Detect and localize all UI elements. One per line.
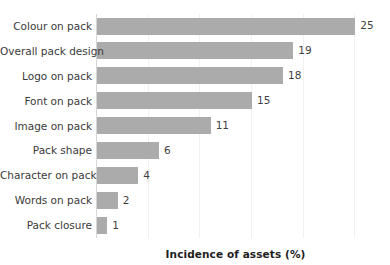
plot-area: 25191815116421 bbox=[96, 14, 375, 238]
bar-row: 4 bbox=[96, 163, 375, 188]
bar-value-label: 4 bbox=[143, 167, 150, 184]
x-axis-title: Incidence of assets (%) bbox=[96, 248, 375, 260]
bar[interactable] bbox=[97, 142, 159, 159]
bar-row: 2 bbox=[96, 188, 375, 213]
bar-row: 15 bbox=[96, 89, 375, 114]
bar[interactable] bbox=[97, 167, 138, 184]
bar[interactable] bbox=[97, 192, 118, 209]
bar-value-label: 19 bbox=[298, 42, 311, 59]
category-label: Colour on pack bbox=[0, 14, 92, 39]
bar[interactable] bbox=[97, 92, 252, 109]
category-label: Pack shape bbox=[0, 138, 92, 163]
bar-row: 18 bbox=[96, 64, 375, 89]
bar-row: 1 bbox=[96, 213, 375, 238]
category-label: Font on pack bbox=[0, 89, 92, 114]
category-axis-labels: Colour on packOverall pack designLogo on… bbox=[0, 14, 92, 238]
bar[interactable] bbox=[97, 117, 211, 134]
bar[interactable] bbox=[97, 42, 293, 59]
bar[interactable] bbox=[97, 18, 355, 35]
category-label: Character on pack bbox=[0, 163, 92, 188]
bar[interactable] bbox=[97, 217, 107, 234]
bar-value-label: 11 bbox=[216, 117, 229, 134]
bar-value-label: 1 bbox=[112, 217, 119, 234]
category-label: Logo on pack bbox=[0, 64, 92, 89]
bar-value-label: 2 bbox=[123, 192, 130, 209]
category-label: Overall pack design bbox=[0, 39, 92, 64]
bar-value-label: 25 bbox=[360, 17, 373, 34]
bar-value-label: 15 bbox=[257, 92, 270, 109]
bar-chart: 25191815116421 Colour on packOverall pac… bbox=[0, 0, 390, 265]
category-label: Pack closure bbox=[0, 213, 92, 238]
bar-row: 6 bbox=[96, 138, 375, 163]
category-label: Words on pack bbox=[0, 188, 92, 213]
bar-row: 11 bbox=[96, 114, 375, 139]
bar-value-label: 18 bbox=[288, 67, 301, 84]
bar-row: 25 bbox=[96, 14, 375, 39]
bar-row: 19 bbox=[96, 39, 375, 64]
bar-rows: 25191815116421 bbox=[96, 14, 375, 238]
bar[interactable] bbox=[97, 67, 283, 84]
category-label: Image on pack bbox=[0, 114, 92, 139]
bar-value-label: 6 bbox=[164, 142, 171, 159]
